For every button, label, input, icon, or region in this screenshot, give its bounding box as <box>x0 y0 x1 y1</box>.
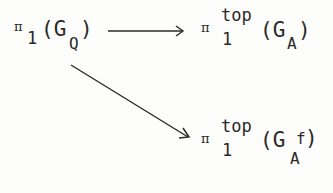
close-paren: ) <box>298 20 311 41</box>
close-paren: ) <box>305 128 318 149</box>
open-paren-G: (G <box>260 130 285 151</box>
superscript-top: top <box>221 118 252 135</box>
subscript-1: 1 <box>27 30 37 47</box>
pi-symbol: π <box>201 132 210 145</box>
horizontal-arrow <box>108 26 183 36</box>
subscript-1: 1 <box>222 31 232 48</box>
group-subscript-A: A <box>290 151 300 167</box>
close-paren: ) <box>80 19 93 40</box>
subscript-1: 1 <box>222 142 232 159</box>
open-paren-G: (G <box>41 19 66 40</box>
superscript-top: top <box>221 7 252 24</box>
pi-symbol: π <box>14 20 23 33</box>
pi-symbol: π <box>201 21 210 34</box>
diagonal-arrow <box>71 65 189 138</box>
group-subscript-Q: Q <box>69 36 79 52</box>
group-subscript-A: A <box>287 36 297 52</box>
open-paren-G: (G <box>260 20 285 41</box>
